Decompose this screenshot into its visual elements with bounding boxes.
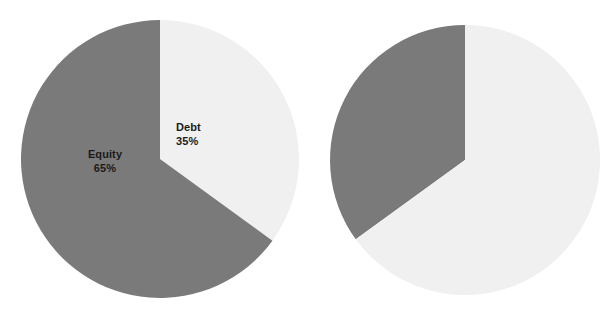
pie-chart-right: Equity 35% Debt 65% [306, 0, 613, 315]
pie-chart-figure: Debt 35% Equity 65% Equity 35% Debt 65% [0, 0, 613, 315]
pie-left-label-debt-name: Debt [176, 120, 236, 134]
pie-left-label-equity: Equity 65% [73, 147, 137, 176]
pie-left-label-debt: Debt 35% [176, 120, 236, 149]
pie-right-svg [306, 0, 613, 315]
pie-left-label-equity-name: Equity [73, 147, 137, 161]
pie-left-label-equity-pct: 65% [73, 161, 137, 175]
pie-left-label-debt-pct: 35% [176, 134, 236, 148]
pie-chart-left: Debt 35% Equity 65% [0, 0, 306, 315]
pie-left-svg [0, 0, 306, 315]
